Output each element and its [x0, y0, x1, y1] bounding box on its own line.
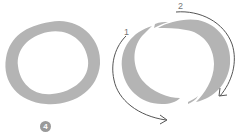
diagram-canvas — [0, 0, 240, 136]
arrow-1-label: 1 — [124, 28, 129, 37]
left-ring — [5, 21, 100, 104]
arrow-2-label: 2 — [178, 2, 183, 11]
right-ring-left-crescent — [122, 22, 180, 104]
step-badge: 4 — [40, 121, 51, 132]
